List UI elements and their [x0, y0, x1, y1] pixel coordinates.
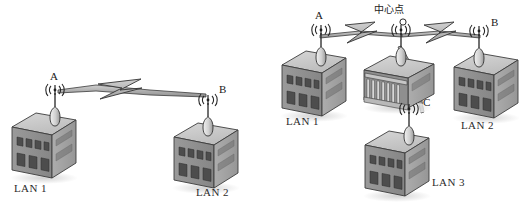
building-label-lan2-right: LAN 2 [461, 119, 494, 131]
node-label-a-left: A [50, 70, 58, 82]
building-label-lan3-right: LAN 3 [432, 176, 465, 188]
wireless-topology-figure: A LAN 1 B LAN 2 [0, 0, 532, 204]
building-lan2-right [452, 53, 520, 124]
wireless-link-a-o [320, 22, 402, 43]
center-point-caption: 中心点 [374, 3, 404, 15]
diagram-canvas: A LAN 1 B LAN 2 [0, 0, 532, 204]
site-lan1-right: A LAN 1 [280, 9, 348, 127]
panel-point-to-point: A LAN 1 B LAN 2 [10, 70, 240, 198]
node-label-b-right: B [491, 16, 498, 28]
center-point-marker [400, 19, 406, 25]
node-label-b-left: B [219, 83, 226, 95]
building-lan3-right [363, 131, 431, 202]
wireless-link-o-b [402, 22, 480, 43]
building-label-lan1-right: LAN 1 [286, 115, 319, 127]
building-lan1-left [10, 113, 78, 184]
node-label-a-right: A [315, 9, 323, 21]
building-label-lan1-left: LAN 1 [14, 182, 47, 194]
wireless-link-a-b [58, 79, 206, 99]
building-lan1-right [280, 51, 348, 122]
building-label-lan2-left: LAN 2 [196, 186, 229, 198]
node-label-c-right: C [423, 96, 430, 108]
panel-star-center-point: 中心点 A LAN 1 [280, 3, 520, 202]
site-lan2-left: B LAN 2 [172, 83, 240, 198]
